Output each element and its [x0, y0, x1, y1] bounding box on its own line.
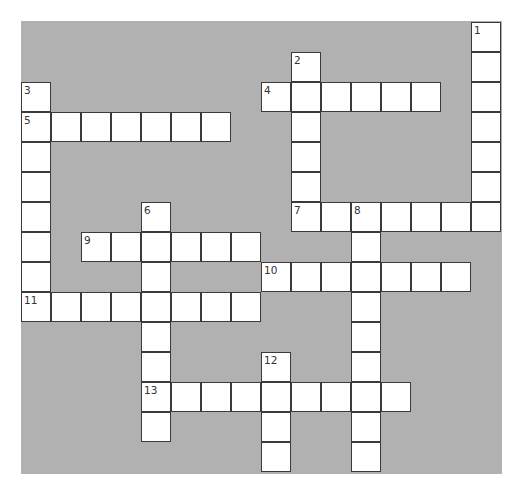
clue-number: 6: [144, 204, 151, 216]
crossword-cell[interactable]: [351, 382, 381, 412]
crossword-cell[interactable]: [411, 262, 441, 292]
crossword-cell[interactable]: [471, 82, 501, 112]
crossword-cell[interactable]: [381, 82, 411, 112]
crossword-cell[interactable]: 8: [351, 202, 381, 232]
clue-number: 9: [84, 234, 91, 246]
crossword-cell[interactable]: [471, 202, 501, 232]
crossword-cell[interactable]: [291, 82, 321, 112]
crossword-cell[interactable]: [201, 382, 231, 412]
crossword-cell[interactable]: [171, 112, 201, 142]
clue-number: 11: [24, 294, 37, 306]
crossword-cell[interactable]: [201, 232, 231, 262]
crossword-cell[interactable]: [321, 262, 351, 292]
crossword-cell[interactable]: [201, 292, 231, 322]
crossword-cell[interactable]: [471, 112, 501, 142]
crossword-cell[interactable]: [171, 292, 201, 322]
crossword-cell[interactable]: [141, 232, 171, 262]
crossword-cell[interactable]: [21, 172, 51, 202]
crossword-cell[interactable]: [291, 112, 321, 142]
crossword-cell[interactable]: 10: [261, 262, 291, 292]
crossword-cell[interactable]: [381, 202, 411, 232]
crossword-cell[interactable]: [111, 292, 141, 322]
clue-number: 12: [264, 354, 277, 366]
clue-number: 1: [474, 24, 481, 36]
crossword-cell[interactable]: [381, 382, 411, 412]
crossword-cell[interactable]: 13: [141, 382, 171, 412]
clue-number: 8: [354, 204, 361, 216]
crossword-cell[interactable]: [411, 82, 441, 112]
crossword-cell[interactable]: 11: [21, 292, 51, 322]
crossword-cell[interactable]: 3: [21, 82, 51, 112]
crossword-cell[interactable]: [171, 382, 201, 412]
crossword-cell[interactable]: [141, 262, 171, 292]
crossword-cell[interactable]: 2: [291, 52, 321, 82]
crossword-cell[interactable]: 5: [21, 112, 51, 142]
crossword-cell[interactable]: [261, 442, 291, 472]
crossword-cell[interactable]: [81, 112, 111, 142]
crossword-cell[interactable]: [441, 262, 471, 292]
crossword-cell[interactable]: [141, 322, 171, 352]
crossword-cell[interactable]: [471, 142, 501, 172]
crossword-cell[interactable]: [351, 82, 381, 112]
clue-number: 4: [264, 84, 271, 96]
crossword-cell[interactable]: [291, 142, 321, 172]
crossword-cell[interactable]: 4: [261, 82, 291, 112]
crossword-cell[interactable]: [381, 262, 411, 292]
crossword-cell[interactable]: [111, 232, 141, 262]
clue-number: 3: [24, 84, 31, 96]
crossword-cell[interactable]: [441, 202, 471, 232]
crossword-cell[interactable]: [471, 172, 501, 202]
crossword-cell[interactable]: [411, 202, 441, 232]
crossword-cell[interactable]: 6: [141, 202, 171, 232]
crossword-cell[interactable]: [321, 202, 351, 232]
crossword-cell[interactable]: [141, 292, 171, 322]
crossword-cell[interactable]: 1: [471, 22, 501, 52]
crossword-cell[interactable]: [351, 292, 381, 322]
clue-number: 2: [294, 54, 301, 66]
crossword-cell[interactable]: [51, 292, 81, 322]
crossword-cell[interactable]: [351, 412, 381, 442]
crossword-cell[interactable]: [141, 352, 171, 382]
crossword-board: 12735114613891012: [21, 21, 502, 474]
crossword-cell[interactable]: [351, 322, 381, 352]
crossword-cell[interactable]: 7: [291, 202, 321, 232]
crossword-cell[interactable]: [261, 412, 291, 442]
crossword-cell[interactable]: [141, 112, 171, 142]
crossword-cell[interactable]: [231, 382, 261, 412]
crossword-cell[interactable]: 12: [261, 352, 291, 382]
crossword-cell[interactable]: [351, 262, 381, 292]
crossword-cell[interactable]: [231, 232, 261, 262]
crossword-cell[interactable]: [21, 142, 51, 172]
crossword-cell[interactable]: [351, 232, 381, 262]
crossword-cell[interactable]: [291, 172, 321, 202]
crossword-cell[interactable]: [21, 232, 51, 262]
clue-number: 7: [294, 204, 301, 216]
crossword-cell[interactable]: [51, 112, 81, 142]
crossword-cell[interactable]: [171, 232, 201, 262]
clue-number: 5: [24, 114, 31, 126]
crossword-cell[interactable]: [351, 442, 381, 472]
crossword-cell[interactable]: [201, 112, 231, 142]
crossword-cell[interactable]: [261, 382, 291, 412]
crossword-cell[interactable]: [321, 82, 351, 112]
crossword-cell[interactable]: [231, 292, 261, 322]
crossword-cell[interactable]: [21, 262, 51, 292]
crossword-cell[interactable]: [21, 202, 51, 232]
crossword-cell[interactable]: [81, 292, 111, 322]
crossword-cell[interactable]: [351, 352, 381, 382]
crossword-cell[interactable]: 9: [81, 232, 111, 262]
crossword-cell[interactable]: [111, 112, 141, 142]
crossword-cell[interactable]: [291, 262, 321, 292]
clue-number: 10: [264, 264, 277, 276]
clue-number: 13: [144, 384, 157, 396]
crossword-cell[interactable]: [471, 52, 501, 82]
crossword-cell[interactable]: [321, 382, 351, 412]
crossword-cell[interactable]: [291, 382, 321, 412]
crossword-cell[interactable]: [141, 412, 171, 442]
